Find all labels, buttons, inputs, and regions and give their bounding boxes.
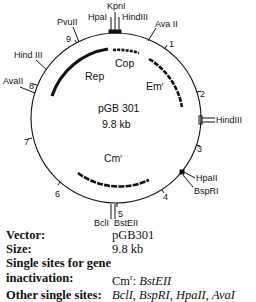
gene-cm-label: Cmr [104, 152, 122, 164]
site-bsteii-label: BstEII [114, 218, 138, 228]
site-hindiii-top-label: HindIII [122, 12, 148, 22]
gene-em-label: Emr [146, 80, 164, 92]
scale-tick-3: 3 [197, 144, 202, 154]
site-hindiii-left-arrow [36, 60, 47, 70]
scale-tick-1: 1 [169, 39, 174, 49]
site-hpaii-label: HpaII [196, 173, 218, 183]
single-sites-label-1: Single sites for gene [6, 256, 112, 270]
gene-cm-arc [78, 173, 149, 187]
size-label: Size: [6, 242, 112, 256]
vector-info-table: Vector: pGB301 Size: 9.8 kb Single sites… [6, 228, 256, 302]
single-sites-value: Cmr: BstEII [112, 271, 171, 288]
gene-cop-label: Cop [115, 57, 134, 69]
site-hpaii-bsprI-arrows [180, 170, 195, 187]
scale-tick-7: 7 [24, 137, 29, 147]
vector-row: Vector: pGB301 [6, 228, 256, 242]
other-sites-value: BclI, BspRI, HpaII, AvaI [112, 288, 235, 302]
site-kpni-label: KpnI [107, 1, 126, 11]
site-arrows-top [109, 12, 121, 33]
plasmid-map: Rep Cop Emr Cmr pGB 301 9.8 kb 1 2 3 4 5… [0, 0, 253, 228]
vector-label: Vector: [6, 228, 112, 242]
plasmid-name: pGB 301 [98, 102, 140, 114]
gene-cop-arc [113, 50, 139, 53]
other-sites-row: Other single sites: BclI, BspRI, HpaII, … [6, 288, 256, 302]
site-hindiii-right-label: HindIII [216, 115, 242, 125]
single-sites-label-2: inactivation: [6, 271, 112, 288]
site-bcli-bsteii-arrows [111, 204, 115, 219]
scale-tick-6: 6 [55, 189, 60, 199]
site-bcli-label: BclI [94, 218, 109, 228]
site-pvuii-label: PvuII [57, 17, 78, 27]
scale-tick-9: 9 [66, 34, 71, 44]
size-value: 9.8 kb [112, 242, 143, 256]
gene-rep-label: Rep [85, 70, 104, 82]
site-avaii-top-label: Ava II [155, 19, 178, 29]
scale-tick-8: 8 [29, 81, 34, 91]
single-sites-row-2: inactivation: Cmr: BstEII [6, 271, 256, 288]
scale-tick-4: 4 [163, 192, 168, 202]
site-pvuii-arrow [73, 27, 79, 42]
site-avaii-left-label: AvaII [3, 76, 23, 86]
vector-value: pGB301 [112, 228, 154, 242]
site-bsprI-label: BspRI [194, 186, 219, 196]
site-hpai-label: HpaI [88, 12, 107, 22]
site-avaii-top-arrow [148, 28, 156, 41]
single-sites-row-1: Single sites for gene [6, 256, 256, 270]
site-hindiii-left-label: Hind III [14, 50, 43, 60]
plasmid-size: 9.8 kb [102, 118, 131, 130]
other-sites-label: Other single sites: [6, 288, 112, 302]
size-row: Size: 9.8 kb [6, 242, 256, 256]
scale-tick-2: 2 [200, 89, 205, 99]
